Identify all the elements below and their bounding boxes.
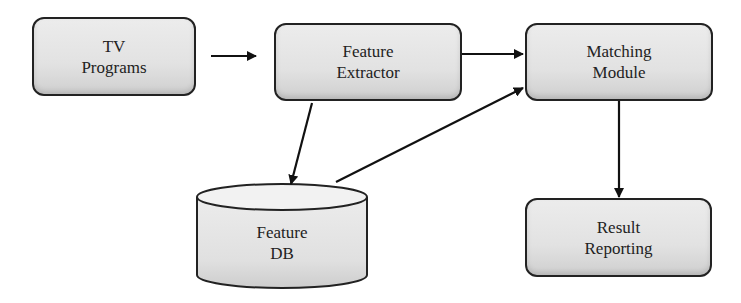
edge-extractor-to-db	[291, 103, 312, 184]
node-label: Matching Module	[586, 41, 651, 83]
node-matching-module: Matching Module	[525, 23, 713, 101]
node-feature-db-label: Feature DB	[196, 222, 368, 264]
node-tv-programs: TV Programs	[32, 17, 196, 96]
node-label: Feature Extractor	[336, 41, 399, 83]
node-feature-extractor: Feature Extractor	[274, 23, 462, 101]
node-result-reporting: Result Reporting	[525, 198, 712, 277]
node-label: Result Reporting	[585, 217, 653, 259]
node-label: TV Programs	[81, 36, 146, 78]
edge-db-to-matching	[336, 88, 523, 182]
